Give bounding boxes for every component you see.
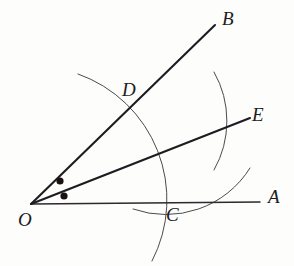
- angle-mark-upper-dot: [56, 177, 63, 184]
- point-label-D: D: [121, 79, 136, 100]
- arc-from-D-through-E: [133, 168, 250, 215]
- point-label-A: A: [266, 186, 280, 207]
- point-label-E: E: [251, 104, 264, 125]
- point-label-O: O: [18, 209, 32, 230]
- point-label-B: B: [222, 8, 234, 29]
- angle-mark-lower-dot: [60, 192, 67, 199]
- ray-OB: [31, 25, 215, 204]
- point-label-C: C: [166, 204, 179, 225]
- arc-from-C-through-E: [214, 72, 227, 170]
- ray-OA: [31, 202, 260, 204]
- ray-OE-bisector: [31, 118, 250, 204]
- geometry-diagram: O A B C D E: [0, 0, 294, 266]
